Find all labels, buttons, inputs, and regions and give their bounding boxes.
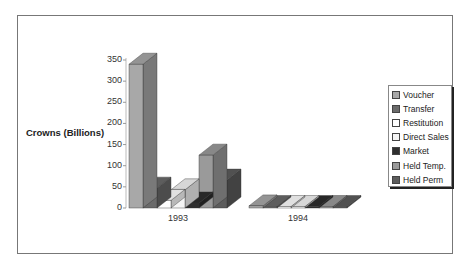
legend-label: Transfer (403, 104, 434, 114)
legend-swatch-icon (392, 176, 400, 184)
legend-label: Held Perm (403, 175, 443, 185)
legend-item: Restitution (392, 116, 448, 130)
legend-item: Direct Sales (392, 130, 448, 144)
legend-item: Held Temp. (392, 158, 448, 172)
legend-swatch-icon (392, 147, 400, 155)
bar-voucher-1993 (129, 53, 157, 208)
legend-label: Held Temp. (403, 161, 446, 171)
legend-item: Held Perm (392, 173, 448, 187)
legend-label: Market (403, 146, 429, 156)
legend-item: Voucher (392, 88, 448, 102)
legend: VoucherTransferRestitutionDirect SalesMa… (388, 85, 452, 187)
x-tick-label: 1994 (288, 213, 308, 223)
legend-swatch-icon (392, 119, 400, 127)
legend-swatch-icon (392, 105, 400, 113)
legend-swatch-icon (392, 133, 400, 141)
legend-swatch-icon (392, 162, 400, 170)
legend-item: Transfer (392, 102, 448, 116)
legend-label: Voucher (403, 90, 434, 100)
legend-label: Restitution (403, 118, 443, 128)
x-tick-label: 1993 (168, 213, 188, 223)
legend-item: Market (392, 144, 448, 158)
legend-label: Direct Sales (403, 132, 449, 142)
legend-swatch-icon (392, 91, 400, 99)
